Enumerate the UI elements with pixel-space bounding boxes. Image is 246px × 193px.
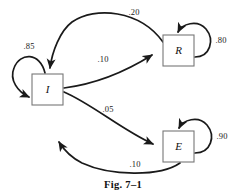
edge-i-to-r: .10 xyxy=(64,54,152,88)
figure-caption: Fig. 7–1 xyxy=(0,179,246,190)
markov-transition-diagram: .20 .10 .05 .10 .85 .80 .9 xyxy=(0,0,246,193)
edge-weight-i-to-r: .10 xyxy=(97,54,108,64)
edge-i-to-e: .05 xyxy=(64,92,153,144)
edge-weight-r-self: .80 xyxy=(215,35,226,45)
figure-container: .20 .10 .05 .10 .85 .80 .9 xyxy=(0,0,246,193)
node-r-label: R xyxy=(174,44,182,56)
edge-e-to-i: .10 xyxy=(59,142,180,173)
node-e-label: E xyxy=(174,140,182,152)
edge-weight-e-self: .90 xyxy=(216,131,227,141)
node-r: R xyxy=(163,35,194,66)
node-e: E xyxy=(163,131,194,162)
edge-weight-i-to-e: .05 xyxy=(102,104,113,114)
edge-weight-i-self: .85 xyxy=(23,41,34,51)
edge-weight-r-to-i: .20 xyxy=(128,7,139,17)
edge-e-to-i-path xyxy=(59,142,180,173)
node-i: I xyxy=(32,74,63,105)
edge-weight-e-to-i: .10 xyxy=(129,159,140,169)
edge-i-to-e-path xyxy=(64,92,153,144)
